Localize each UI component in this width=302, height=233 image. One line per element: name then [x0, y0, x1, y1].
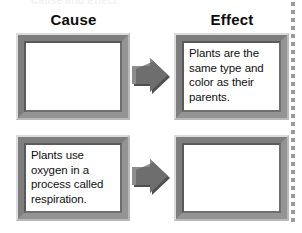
clipped-page-title: Cause and Effect	[31, 0, 151, 5]
cut-line-dot	[291, 186, 295, 190]
frame-writing-area[interactable]: Plants are the same type and color as th…	[182, 41, 281, 112]
cut-line-dot	[291, 2, 295, 6]
cause-box-2[interactable]: Plants use oxygen in a process called re…	[16, 135, 130, 221]
cut-line-dot	[291, 34, 295, 38]
cut-line-dot	[291, 82, 295, 86]
cut-line-dot	[291, 178, 295, 182]
column-heading-cause: Cause	[17, 10, 130, 29]
cause-and-effect-worksheet: Cause and Effect Cause Effect Plants are…	[0, 0, 302, 233]
cut-line-dot	[291, 50, 295, 54]
frame-writing-area[interactable]	[24, 41, 122, 112]
right-arrow-icon	[130, 158, 174, 198]
frame-writing-area[interactable]: Plants use oxygen in a process called re…	[24, 143, 122, 213]
cut-line-dot	[291, 194, 295, 198]
cut-line-dot	[291, 58, 295, 62]
cut-line-dot	[291, 26, 295, 30]
cut-line-dot	[291, 130, 295, 134]
cut-line-dot	[291, 146, 295, 150]
dotted-cut-line	[291, 0, 296, 233]
cut-line-dot	[291, 122, 295, 126]
cut-line-dot	[291, 218, 295, 222]
cut-line-dot	[291, 10, 295, 14]
cut-line-dot	[291, 170, 295, 174]
cut-line-dot	[291, 42, 295, 46]
cut-line-dot	[291, 138, 295, 142]
frame-writing-area[interactable]	[182, 143, 281, 213]
right-arrow-icon	[130, 57, 174, 97]
cut-line-dot	[291, 154, 295, 158]
cut-line-dot	[291, 106, 295, 110]
cut-line-dot	[291, 114, 295, 118]
effect-box-1-text: Plants are the same type and color as th…	[189, 46, 275, 104]
cut-line-dot	[291, 202, 295, 206]
cut-line-dot	[291, 18, 295, 22]
cause-box-2-text: Plants use oxygen in a process called re…	[31, 148, 116, 206]
cut-line-dot	[291, 162, 295, 166]
effect-box-2[interactable]	[174, 135, 289, 221]
cut-line-dot	[291, 74, 295, 78]
cut-line-dot	[291, 98, 295, 102]
cut-line-dot	[291, 90, 295, 94]
cut-line-dot	[291, 210, 295, 214]
cut-line-dot	[291, 66, 295, 70]
column-heading-effect: Effect	[175, 10, 289, 29]
effect-box-1[interactable]: Plants are the same type and color as th…	[174, 33, 289, 120]
cause-box-1[interactable]	[16, 33, 130, 120]
